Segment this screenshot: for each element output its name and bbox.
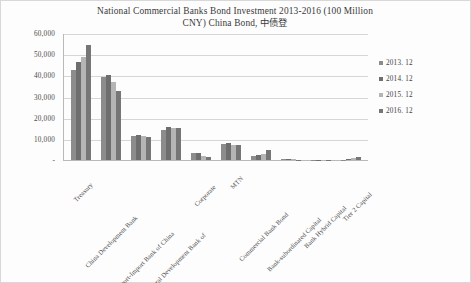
bar — [176, 128, 181, 160]
chart-title: National Commercial Banks Bond Investmen… — [59, 5, 411, 29]
bar — [296, 160, 301, 161]
bar-group — [66, 34, 96, 160]
legend-item[interactable]: 2014. 12 — [379, 73, 465, 85]
legend-item[interactable]: 2016. 12 — [379, 105, 465, 117]
y-axis-tick: 60,000 — [34, 30, 55, 38]
bar-group — [216, 34, 246, 160]
legend-item-label: 2015. 12 — [386, 91, 413, 99]
chart-legend: 2013. 122014. 122015. 122016. 12 — [379, 57, 465, 121]
bar — [116, 91, 121, 160]
legend-item-label: 2016. 12 — [386, 107, 413, 115]
bar-group — [306, 34, 336, 160]
legend-swatch-icon — [379, 93, 383, 97]
x-axis-tick-label: Treasury — [89, 164, 111, 186]
bar-group — [246, 34, 276, 160]
y-axis-tick: 20,000 — [34, 115, 55, 123]
chart-title-line-2: CNY) China Bond, 中债登 — [59, 17, 411, 29]
legend-item-label: 2013. 12 — [386, 59, 413, 67]
bar — [146, 137, 151, 160]
bar-group — [276, 34, 306, 160]
bar-chart: National Commercial Banks Bond Investmen… — [0, 0, 471, 283]
x-axis-tick-label: China Development Bank — [133, 164, 188, 219]
bar-group — [186, 34, 216, 160]
legend-swatch-icon — [379, 77, 383, 81]
legend-item[interactable]: 2013. 12 — [379, 57, 465, 69]
bar-group — [96, 34, 126, 160]
bar — [86, 45, 91, 160]
y-axis-tick: 40,000 — [34, 72, 55, 80]
bar — [236, 145, 241, 160]
bars-layer — [64, 34, 368, 160]
bar — [206, 157, 211, 160]
y-axis: -10,00020,00030,00040,00050,00060,000 — [5, 34, 59, 161]
bar-group — [126, 34, 156, 160]
bar — [356, 157, 361, 160]
legend-item[interactable]: 2015. 12 — [379, 89, 465, 101]
x-axis-tick-label: MTN — [239, 164, 255, 180]
bar — [326, 160, 331, 161]
y-axis-tick: 50,000 — [34, 51, 55, 59]
plot-area — [63, 34, 368, 161]
bar — [266, 150, 271, 160]
bar-group — [156, 34, 186, 160]
chart-title-line-1: National Commercial Banks Bond Investmen… — [59, 5, 411, 17]
legend-item-label: 2014. 12 — [386, 75, 413, 83]
y-axis-tick: 10,000 — [34, 136, 55, 144]
y-axis-tick: - — [52, 157, 55, 165]
y-axis-tick: 30,000 — [34, 94, 55, 102]
bar-group — [336, 34, 366, 160]
legend-swatch-icon — [379, 109, 383, 113]
legend-swatch-icon — [379, 61, 383, 65]
